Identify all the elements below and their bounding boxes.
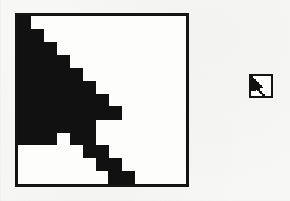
cursor-pixel-cell bbox=[31, 119, 44, 132]
cursor-pixel-cell bbox=[257, 85, 259, 87]
cursor-pixel-cell bbox=[257, 82, 259, 84]
cursor-pixel-cell bbox=[70, 94, 83, 107]
cursor-pixel-cell bbox=[251, 78, 253, 80]
cursor-pixel-cell bbox=[18, 55, 31, 68]
cursor-pixel-cell bbox=[259, 88, 261, 90]
cursor-pixel-cell bbox=[70, 81, 83, 94]
cursor-pixel-cell bbox=[31, 42, 44, 55]
cursor-pixel-cell bbox=[254, 81, 256, 83]
cursor-pixel-cell bbox=[251, 79, 253, 81]
cursor-pixel-cell bbox=[253, 85, 255, 87]
cursor-pixel-cell bbox=[253, 90, 255, 92]
cursor-pixel-cell bbox=[96, 158, 109, 171]
cursor-pixel-cell bbox=[262, 87, 264, 89]
cursor-pixel-cell bbox=[251, 87, 253, 89]
cursor-pixel-cell bbox=[256, 85, 258, 87]
cursor-pixel-cell bbox=[251, 88, 253, 90]
cursor-pixel-cell bbox=[259, 90, 261, 92]
cursor-pixel-cell bbox=[256, 81, 258, 83]
cursor-pixel-cell bbox=[31, 106, 44, 119]
cursor-pixel-cell bbox=[18, 29, 31, 42]
cursor-pixel-cell bbox=[257, 87, 259, 89]
cursor-pixel-cell bbox=[260, 93, 262, 95]
cursor-pixel-cell bbox=[44, 119, 57, 132]
cursor-pixel-cell bbox=[70, 106, 83, 119]
cursor-pixel-cell bbox=[253, 81, 255, 83]
cursor-pixel-cell bbox=[251, 81, 253, 83]
cursor-pixel-cell bbox=[96, 145, 109, 158]
cursor-pixel-cell bbox=[70, 119, 83, 132]
cursor-pixel-cell bbox=[31, 81, 44, 94]
cursor-pixel-cell bbox=[254, 85, 256, 87]
cursor-pixel-cell bbox=[253, 87, 255, 89]
cursor-pixel-cell bbox=[18, 132, 31, 145]
cursor-pixel-cell bbox=[251, 84, 253, 86]
magnified-cursor-bitmap bbox=[18, 16, 186, 184]
cursor-pixel-cell bbox=[259, 84, 261, 86]
cursor-pixel-cell bbox=[253, 82, 255, 84]
cursor-pixel-cell bbox=[263, 94, 265, 96]
cursor-pixel-cell bbox=[253, 78, 255, 80]
cursor-pixel-cell bbox=[31, 55, 44, 68]
cursor-pixel-cell bbox=[256, 84, 258, 86]
cursor-pixel-cell bbox=[260, 85, 262, 87]
cursor-pixel-cell bbox=[57, 81, 70, 94]
cursor-pixel-cell bbox=[44, 106, 57, 119]
cursor-pixel-cell bbox=[96, 94, 109, 107]
cursor-pixel-cell bbox=[260, 91, 262, 93]
cursor-pixel-cell bbox=[18, 68, 31, 81]
cursor-pixel-cell bbox=[83, 119, 96, 132]
cursor-pixel-cell bbox=[254, 82, 256, 84]
cursor-pixel-cell bbox=[44, 132, 57, 145]
cursor-pixel-cell bbox=[57, 55, 70, 68]
cursor-pixel-cell bbox=[259, 87, 261, 89]
cursor-pixel-cell bbox=[259, 85, 261, 87]
cursor-pixel-cell bbox=[121, 171, 134, 184]
cursor-pixel-cell bbox=[18, 119, 31, 132]
cursor-pixel-cell bbox=[257, 84, 259, 86]
cursor-pixel-cell bbox=[260, 87, 262, 89]
cursor-pixel-cell bbox=[83, 132, 96, 145]
cursor-pixel-cell bbox=[251, 82, 253, 84]
cursor-pixel-cell bbox=[31, 68, 44, 81]
cursor-pixel-cell bbox=[31, 94, 44, 107]
cursor-pixel-cell bbox=[253, 84, 255, 86]
cursor-pixel-cell bbox=[256, 88, 258, 90]
cursor-pixel-cell bbox=[31, 29, 44, 42]
cursor-pixel-cell bbox=[18, 16, 31, 29]
cursor-pixel-cell bbox=[83, 145, 96, 158]
cursor-pixel-cell bbox=[254, 84, 256, 86]
cursor-pixel-cell bbox=[108, 106, 121, 119]
cursor-pixel-cell bbox=[44, 94, 57, 107]
cursor-pixel-cell bbox=[108, 158, 121, 171]
cursor-pixel-cell bbox=[31, 132, 44, 145]
cursor-pixel-cell bbox=[44, 68, 57, 81]
cursor-pixel-cell bbox=[108, 171, 121, 184]
cursor-pixel-cell bbox=[256, 82, 258, 84]
cursor-pixel-cell bbox=[57, 119, 70, 132]
cursor-pixel-cell bbox=[254, 88, 256, 90]
cursor-pixel-cell bbox=[18, 81, 31, 94]
cursor-pixel-cell bbox=[96, 106, 109, 119]
cursor-pixel-cell bbox=[44, 42, 57, 55]
cursor-pixel-cell bbox=[251, 85, 253, 87]
cursor-pixel-cell bbox=[254, 87, 256, 89]
cursor-pixel-cell bbox=[44, 55, 57, 68]
magnified-cursor-panel bbox=[15, 13, 189, 187]
cursor-pixel-cell bbox=[18, 106, 31, 119]
cursor-pixel-cell bbox=[253, 79, 255, 81]
cursor-pixel-cell bbox=[57, 106, 70, 119]
cursor-pixel-cell bbox=[262, 94, 264, 96]
cursor-pixel-cell bbox=[257, 88, 259, 90]
cursor-pixel-cell bbox=[251, 76, 253, 78]
cursor-pixel-cell bbox=[254, 79, 256, 81]
cursor-pixel-cell bbox=[18, 42, 31, 55]
cursor-pixel-cell bbox=[251, 90, 253, 92]
cursor-pixel-cell bbox=[70, 68, 83, 81]
cursor-pixel-cell bbox=[83, 81, 96, 94]
cursor-pixel-cell bbox=[57, 94, 70, 107]
cursor-pixel-cell bbox=[57, 68, 70, 81]
cursor-pixel-cell bbox=[257, 90, 259, 92]
cursor-pixel-cell bbox=[254, 90, 256, 92]
actual-size-cursor-panel bbox=[249, 74, 273, 98]
